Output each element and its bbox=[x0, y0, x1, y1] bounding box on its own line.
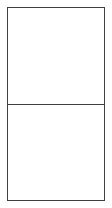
top-cell bbox=[8, 8, 104, 105]
bottom-cell bbox=[8, 105, 104, 201]
page-background bbox=[0, 0, 112, 208]
two-cell-box bbox=[7, 7, 105, 201]
